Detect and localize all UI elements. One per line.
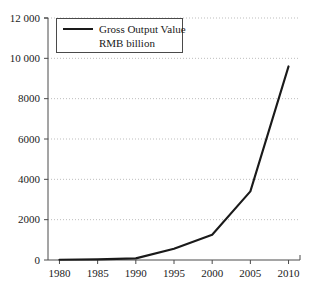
y-tick-label: 0 xyxy=(0,255,40,266)
chart-legend: Gross Output Value RMB billion xyxy=(56,18,183,53)
y-tick-label: 2000 xyxy=(0,214,40,225)
legend-label-line1: Gross Output Value xyxy=(99,23,186,35)
y-axis-ticks xyxy=(44,18,48,260)
y-tick-label: 6000 xyxy=(0,134,40,145)
y-tick-label: 10 000 xyxy=(0,53,40,64)
x-axis-ticks xyxy=(59,260,288,264)
y-tick-label: 8000 xyxy=(0,93,40,104)
line-chart: 0200040006000800010 00012 000 1980198519… xyxy=(0,0,313,293)
y-tick-label: 12 000 xyxy=(0,13,40,24)
legend-entry: Gross Output Value xyxy=(63,23,186,35)
data-series-line xyxy=(59,66,288,259)
legend-line-swatch xyxy=(63,28,93,30)
y-tick-label: 4000 xyxy=(0,174,40,185)
legend-label-line2: RMB billion xyxy=(99,37,155,49)
x-tick-label: 2010 xyxy=(266,268,312,279)
